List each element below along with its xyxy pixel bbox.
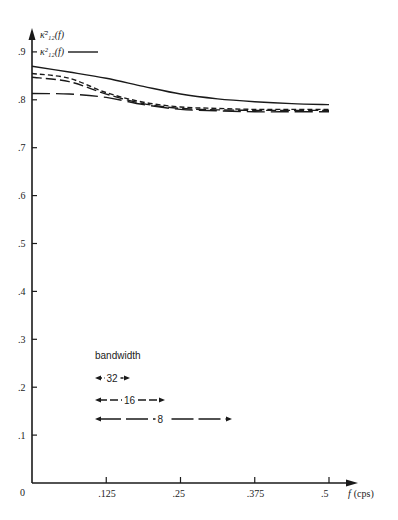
y-tick-label: .4 bbox=[18, 286, 26, 297]
x-tick-label: .375 bbox=[247, 488, 265, 499]
y-tick-label: .6 bbox=[18, 190, 26, 201]
curves bbox=[32, 66, 329, 112]
curve-solid bbox=[32, 66, 329, 104]
y-tick-label: .1 bbox=[18, 430, 26, 441]
bandwidth-row-32: 32 bbox=[95, 373, 130, 384]
x-tick-label: .125 bbox=[98, 488, 116, 499]
x-ticks: .125.25.375.5 bbox=[98, 477, 329, 499]
y-tick-label: .8 bbox=[18, 94, 26, 105]
y-tick-label: .2 bbox=[18, 382, 26, 393]
bandwidth-row-16: 16 bbox=[95, 395, 165, 406]
legend-true-label: κ²₁₂(f) bbox=[40, 46, 65, 58]
y-axis-arrow-icon bbox=[29, 28, 36, 40]
x-axis-arrow-icon bbox=[346, 480, 358, 487]
x-tick-label: .25 bbox=[173, 488, 186, 499]
coherence-chart: .1.2.3.4.5.6.7.8.9 .125.25.375.5 0 f(cps… bbox=[0, 0, 398, 520]
bandwidth-value: 16 bbox=[124, 395, 136, 406]
arrow-left-icon bbox=[95, 398, 101, 403]
y-tick-label: .3 bbox=[18, 334, 26, 345]
arrow-right-icon bbox=[124, 376, 130, 381]
y-tick-label: .9 bbox=[18, 46, 26, 57]
bandwidth-legend: bandwidth 32168 bbox=[95, 350, 232, 425]
x-axis-label: f(cps) bbox=[348, 488, 374, 500]
arrow-left-icon bbox=[95, 376, 101, 381]
bandwidth-row-8: 8 bbox=[95, 414, 232, 425]
y-ticks: .1.2.3.4.5.6.7.8.9 bbox=[18, 46, 37, 440]
bandwidth-title: bandwidth bbox=[95, 350, 141, 361]
curve-legend: κ̄²₁₂(f) κ²₁₂(f) bbox=[40, 29, 98, 58]
bandwidth-value: 8 bbox=[158, 414, 164, 425]
curve-short-dash bbox=[32, 73, 329, 109]
x-tick-label: .5 bbox=[321, 488, 329, 499]
y-tick-label: .5 bbox=[18, 238, 26, 249]
y-tick-label: .7 bbox=[18, 142, 26, 153]
axes bbox=[32, 36, 352, 483]
arrow-left-icon bbox=[95, 417, 101, 422]
legend-estimate-label: κ̄²₁₂(f) bbox=[40, 29, 65, 41]
arrow-right-icon bbox=[159, 398, 165, 403]
bandwidth-value: 32 bbox=[107, 373, 119, 384]
arrow-right-icon bbox=[226, 417, 232, 422]
origin-label: 0 bbox=[20, 487, 25, 498]
